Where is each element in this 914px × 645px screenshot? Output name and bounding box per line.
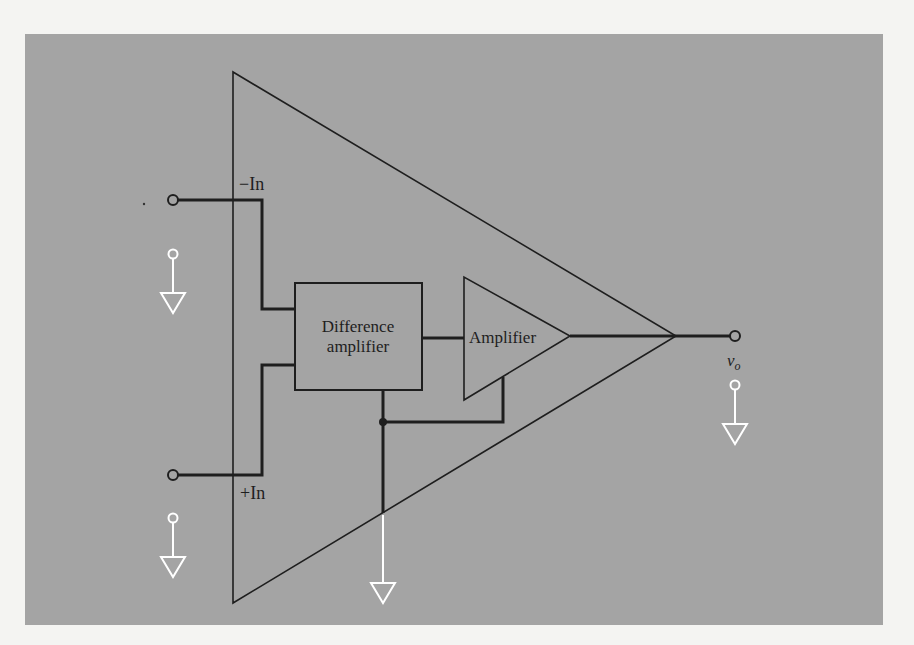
inverting-input-terminal bbox=[168, 195, 178, 205]
output-terminal bbox=[730, 331, 740, 341]
print-speck bbox=[143, 203, 145, 205]
noninverting-input-label: +In bbox=[240, 483, 265, 503]
inverting-input-label: −In bbox=[239, 174, 264, 194]
amplifier-label: Amplifier bbox=[469, 328, 536, 347]
difference-amplifier-label-line1: Difference bbox=[322, 317, 394, 336]
diagram-panel bbox=[25, 34, 883, 625]
noninverting-input-terminal bbox=[168, 470, 178, 480]
difference-amplifier-label-line2: amplifier bbox=[327, 337, 390, 356]
junction-dot bbox=[379, 418, 387, 426]
op-amp-block-diagram: −In +In Difference amplifier Amplifier v… bbox=[0, 0, 914, 645]
output-label-subscript: o bbox=[735, 359, 741, 373]
